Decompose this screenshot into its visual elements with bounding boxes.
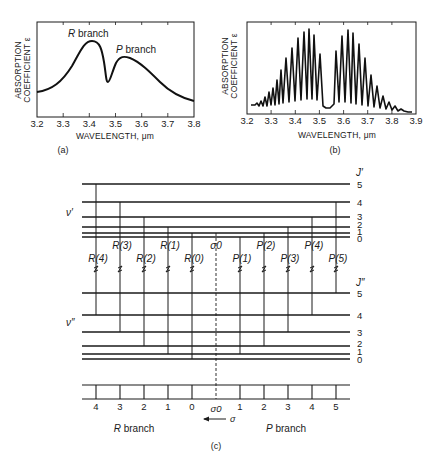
svg-text:P(4): P(4) [305,240,324,251]
svg-text:P(3): P(3) [281,253,300,264]
upper-levels [82,184,350,237]
spectrum-strip [82,385,350,399]
svg-text:5: 5 [357,179,362,190]
arrow-left-icon [203,417,209,422]
upper-j-header: J′ [355,167,364,178]
svg-text:3.4: 3.4 [83,118,96,129]
panel-a-ylabel: ABSORPTION COEFFICIENT ε [13,37,32,102]
lower-j-header: J″ [355,277,365,288]
panel-a-caption: (a) [58,145,69,155]
svg-text:σ0: σ0 [210,240,222,251]
panel-b-xticklabels: 3.2 3.3 3.4 3.5 3.6 3.7 3.8 3.9 [240,115,422,126]
svg-text:R(1): R(1) [160,240,179,251]
panel-c-caption: (c) [211,441,222,451]
svg-text:3.8: 3.8 [187,118,200,129]
svg-text:σ0: σ0 [210,403,222,414]
svg-text:COEFFICIENT ε: COEFFICIENT ε [229,33,239,98]
svg-text:3.8: 3.8 [385,115,398,126]
figure-canvas: R branch P branch 3.2 3.3 3.4 3.5 3.6 3.… [0,0,439,454]
panel-b-caption: (b) [330,145,341,155]
panel-b-xlabel: WAVELENGTH, μm [298,130,376,140]
svg-text:3.4: 3.4 [289,115,302,126]
svg-text:0: 0 [357,233,362,244]
svg-text:P(5): P(5) [329,253,348,264]
spectrum-tick-labels: 4 3 2 1 0 σ0 1 2 3 4 5 [93,401,338,414]
svg-text:3.2: 3.2 [240,115,253,126]
svg-text:R(0): R(0) [184,253,203,264]
transition-lines [96,184,336,359]
svg-text:5: 5 [333,401,338,412]
svg-text:0: 0 [357,354,362,365]
svg-text:3.5: 3.5 [109,118,122,129]
svg-text:R(4): R(4) [88,253,107,264]
svg-text:R(2): R(2) [136,253,155,264]
svg-text:4: 4 [93,401,98,412]
upper-level-numbers: 5 4 3 2 1 0 [357,179,362,244]
svg-text:4: 4 [357,197,362,208]
panel-a: R branch P branch 3.2 3.3 3.4 3.5 3.6 3.… [13,22,201,155]
svg-text:P(2): P(2) [257,240,276,251]
svg-text:5: 5 [357,288,362,299]
sigma-direction-arrow: σ [203,414,236,424]
panel-b: 3.2 3.3 3.4 3.5 3.6 3.7 3.8 3.9 WAVELENG… [220,22,423,155]
panel-b-curve [251,29,412,112]
svg-text:3.3: 3.3 [264,115,277,126]
svg-text:4: 4 [309,401,314,412]
svg-text:2: 2 [261,401,266,412]
panel-c: R(3) R(1) σ0 P(2) P(4) R(4) R(2) R(0) P(… [66,167,365,451]
svg-text:P(1): P(1) [233,253,252,264]
r-branch-annotation: R branch [68,28,109,39]
panel-a-frame [37,22,194,117]
svg-text:3: 3 [117,401,122,412]
panel-b-ylabel: ABSORPTION COEFFICIENT ε [220,33,239,98]
svg-text:1: 1 [165,401,170,412]
svg-text:0: 0 [189,401,194,412]
svg-text:3: 3 [357,327,362,338]
svg-text:3.6: 3.6 [337,115,350,126]
panel-a-xticklabels: 3.2 3.3 3.4 3.5 3.6 3.7 3.8 [30,118,200,129]
lower-vibrational-state-label: ν″ [66,317,75,328]
panel-a-xlabel: WAVELENGTH, μm [76,131,154,141]
svg-text:3.9: 3.9 [409,115,422,126]
lower-level-numbers: 5 4 3 2 1 0 [357,288,362,365]
svg-text:1: 1 [237,401,242,412]
svg-text:3.2: 3.2 [30,118,43,129]
svg-text:σ: σ [230,414,236,424]
svg-text:3.7: 3.7 [161,118,174,129]
svg-text:COEFFICIENT ε: COEFFICIENT ε [22,37,32,102]
svg-text:R(3): R(3) [112,240,131,251]
svg-text:2: 2 [141,401,146,412]
transition-labels-lower: R(4) R(2) R(0) P(1) P(3) P(5) [88,253,347,264]
upper-vibrational-state-label: ν′ [66,207,74,218]
svg-text:3.7: 3.7 [361,115,374,126]
svg-text:4: 4 [357,310,362,321]
svg-text:3.3: 3.3 [57,118,70,129]
p-branch-label: P branch [266,423,306,434]
r-branch-label: R branch [114,423,155,434]
svg-text:3.6: 3.6 [135,118,148,129]
svg-text:3.5: 3.5 [313,115,326,126]
svg-text:3: 3 [285,401,290,412]
p-branch-annotation: P branch [116,44,156,55]
